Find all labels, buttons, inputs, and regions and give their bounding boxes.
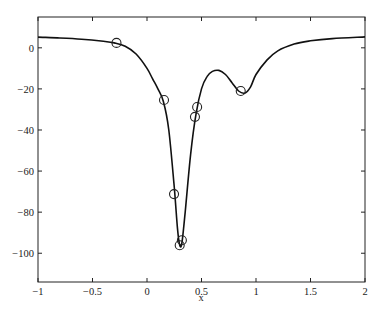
x-tick-label: 0 [144, 286, 149, 297]
plot-area [38, 17, 365, 282]
y-tick-label: −40 [18, 125, 34, 136]
y-tick-label: −60 [18, 166, 34, 177]
line-chart: −1−0.500.511.52 0−20−40−60−80−100 x [0, 0, 381, 319]
y-tick-label: −80 [18, 207, 34, 218]
y-tick-label: −100 [12, 248, 34, 259]
x-tick-label: −1 [32, 286, 43, 297]
y-tick-label: 0 [29, 43, 34, 54]
x-tick-label: 1.5 [304, 286, 317, 297]
x-tick-label: −0.5 [83, 286, 102, 297]
x-axis-label: x [198, 292, 204, 303]
x-tick-label: 1 [253, 286, 258, 297]
x-tick-label: 2 [362, 286, 367, 297]
y-tick-label: −20 [18, 84, 34, 95]
